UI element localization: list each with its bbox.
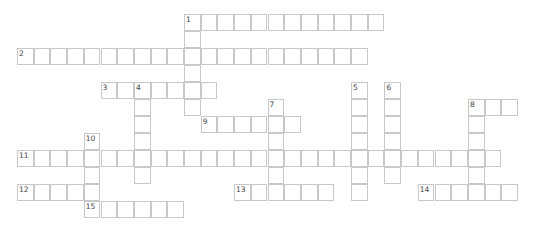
crossword-cell[interactable] [50,150,67,167]
crossword-cell[interactable] [301,48,318,65]
crossword-cell[interactable] [435,184,452,201]
crossword-cell[interactable] [485,150,502,167]
crossword-cell[interactable] [284,116,301,133]
crossword-cell[interactable] [268,167,285,184]
crossword-cell[interactable] [217,14,234,31]
crossword-cell[interactable] [234,14,251,31]
crossword-cell[interactable] [167,201,184,218]
crossword-cell[interactable] [184,65,201,82]
crossword-cell[interactable] [351,150,368,167]
crossword-cell[interactable] [251,116,268,133]
crossword-cell[interactable] [117,48,134,65]
crossword-cell[interactable] [301,150,318,167]
crossword-cell[interactable] [301,14,318,31]
crossword-cell[interactable] [351,167,368,184]
crossword-cell[interactable]: 5 [351,82,368,99]
crossword-cell[interactable] [167,48,184,65]
crossword-cell[interactable] [151,201,168,218]
crossword-cell[interactable] [251,184,268,201]
crossword-cell[interactable] [418,150,435,167]
crossword-cell[interactable] [184,31,201,48]
crossword-cell[interactable] [384,150,401,167]
crossword-cell[interactable] [468,150,485,167]
crossword-cell[interactable] [268,133,285,150]
crossword-cell[interactable] [435,150,452,167]
crossword-cell[interactable] [67,150,84,167]
crossword-cell[interactable] [451,150,468,167]
crossword-cell[interactable] [384,133,401,150]
crossword-cell[interactable] [151,82,168,99]
crossword-cell[interactable] [217,48,234,65]
crossword-cell[interactable]: 15 [84,201,101,218]
crossword-cell[interactable] [67,184,84,201]
crossword-cell[interactable] [384,167,401,184]
crossword-cell[interactable] [184,150,201,167]
crossword-cell[interactable] [234,150,251,167]
crossword-cell[interactable] [151,150,168,167]
crossword-cell[interactable]: 1 [184,14,201,31]
crossword-cell[interactable] [351,99,368,116]
crossword-cell[interactable] [334,14,351,31]
crossword-cell[interactable] [251,14,268,31]
crossword-cell[interactable] [217,150,234,167]
crossword-cell[interactable] [134,201,151,218]
crossword-cell[interactable] [351,133,368,150]
crossword-cell[interactable] [268,116,285,133]
crossword-cell[interactable] [117,150,134,167]
crossword-cell[interactable] [468,167,485,184]
crossword-cell[interactable] [84,184,101,201]
crossword-cell[interactable]: 11 [17,150,34,167]
crossword-cell[interactable] [50,184,67,201]
crossword-cell[interactable]: 14 [418,184,435,201]
crossword-cell[interactable] [268,184,285,201]
crossword-cell[interactable] [101,150,118,167]
crossword-cell[interactable] [318,48,335,65]
crossword-cell[interactable] [184,48,201,65]
crossword-cell[interactable] [167,150,184,167]
crossword-cell[interactable] [368,14,385,31]
crossword-cell[interactable] [34,150,51,167]
crossword-cell[interactable] [351,48,368,65]
crossword-cell[interactable] [384,99,401,116]
crossword-cell[interactable] [284,14,301,31]
crossword-cell[interactable] [101,201,118,218]
crossword-cell[interactable] [451,184,468,201]
crossword-cell[interactable] [284,150,301,167]
crossword-cell[interactable] [134,48,151,65]
crossword-cell[interactable] [251,48,268,65]
crossword-cell[interactable] [84,150,101,167]
crossword-cell[interactable]: 9 [201,116,218,133]
crossword-cell[interactable] [284,48,301,65]
crossword-cell[interactable] [334,150,351,167]
crossword-cell[interactable]: 8 [468,99,485,116]
crossword-cell[interactable] [201,48,218,65]
crossword-cell[interactable] [401,150,418,167]
crossword-cell[interactable]: 6 [384,82,401,99]
crossword-cell[interactable] [201,14,218,31]
crossword-cell[interactable] [351,184,368,201]
crossword-cell[interactable] [201,82,218,99]
crossword-cell[interactable] [301,184,318,201]
crossword-cell[interactable] [368,150,385,167]
crossword-cell[interactable] [284,184,301,201]
crossword-cell[interactable] [134,116,151,133]
crossword-cell[interactable] [34,48,51,65]
crossword-cell[interactable] [351,14,368,31]
crossword-cell[interactable] [134,150,151,167]
crossword-cell[interactable] [268,150,285,167]
crossword-cell[interactable] [318,150,335,167]
crossword-cell[interactable]: 12 [17,184,34,201]
crossword-cell[interactable] [268,14,285,31]
crossword-cell[interactable] [101,48,118,65]
crossword-cell[interactable] [468,184,485,201]
crossword-cell[interactable] [501,99,518,116]
crossword-cell[interactable] [134,99,151,116]
crossword-cell[interactable] [234,48,251,65]
crossword-cell[interactable] [268,48,285,65]
crossword-cell[interactable] [318,184,335,201]
crossword-cell[interactable] [167,82,184,99]
crossword-cell[interactable] [151,48,168,65]
crossword-cell[interactable] [318,14,335,31]
crossword-cell[interactable] [134,133,151,150]
crossword-cell[interactable] [84,48,101,65]
